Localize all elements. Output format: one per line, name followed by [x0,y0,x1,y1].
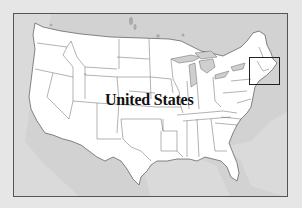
country-label: United States [105,91,194,109]
map-frame: United States [13,13,288,197]
new-england-highlight-box [249,57,280,85]
